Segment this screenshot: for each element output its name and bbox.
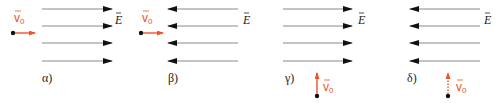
panel-beta: E v0 β) — [139, 9, 251, 85]
field-label: E — [483, 13, 492, 27]
field-lines-right — [283, 9, 352, 61]
field-lines-right — [42, 9, 112, 61]
case-label: γ) — [284, 71, 294, 85]
velocity-label: v0 — [456, 80, 467, 95]
panel-alpha: E v0 α) — [11, 9, 123, 85]
velocity-label: v0 — [14, 11, 25, 26]
case-label: δ) — [407, 71, 417, 85]
field-lines-left — [168, 9, 238, 61]
case-label: α) — [42, 71, 52, 85]
charge-dot — [315, 94, 319, 98]
charge-dot — [446, 94, 450, 98]
field-label: E — [242, 13, 251, 27]
electric-field-diagram: E v0 α) E v0 β) E v0 — [0, 0, 501, 103]
velocity-label: v0 — [323, 80, 334, 95]
panel-gamma: E v0 γ) — [283, 9, 366, 98]
panel-delta: E v0 δ) — [407, 9, 492, 98]
field-label: E — [357, 13, 366, 27]
field-lines-left — [410, 9, 480, 61]
velocity-label: v0 — [142, 11, 153, 26]
charge-dot — [11, 31, 15, 35]
field-label: E — [114, 13, 123, 27]
charge-dot — [139, 31, 143, 35]
case-label: β) — [168, 71, 178, 85]
